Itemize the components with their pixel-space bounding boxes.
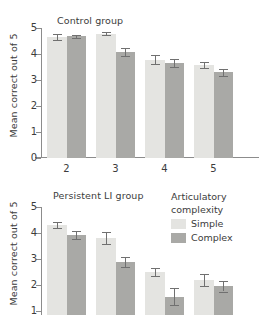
error-bar-cap-upper (53, 222, 62, 223)
error-bar (57, 34, 58, 41)
bar (165, 63, 185, 158)
panel-title: Control group (57, 15, 123, 26)
error-bar (125, 257, 126, 267)
y-axis-line (41, 28, 42, 158)
bar (47, 37, 67, 158)
legend-swatch-complex (171, 233, 186, 243)
error-bar-cap-upper (219, 281, 228, 282)
bar (96, 34, 116, 158)
error-bar-cap-lower (200, 68, 209, 69)
bar (116, 52, 136, 158)
error-bar-cap-upper (200, 62, 209, 63)
chart-panel-control-group: Control group Mean correct out of 5 0123… (0, 0, 262, 178)
error-bar-cap-upper (151, 268, 160, 269)
y-tick-label: 1 (31, 306, 37, 315)
error-bar-cap-upper (53, 34, 62, 35)
error-bar-cap-upper (72, 231, 81, 232)
error-bar (174, 59, 175, 66)
legend-label-complex: Complex (191, 231, 233, 244)
legend-item-complex: Complex (171, 231, 233, 244)
bar (194, 65, 214, 158)
error-bar-cap-lower (53, 40, 62, 41)
y-tick-label: 3 (31, 75, 37, 85)
error-bar (106, 232, 107, 243)
error-bar-cap-lower (121, 56, 130, 57)
error-bar-cap-lower (219, 76, 228, 77)
y-tick-label: 1 (31, 127, 37, 137)
legend-label-simple: Simple (191, 217, 223, 230)
bar (116, 262, 136, 315)
error-bar (204, 274, 205, 286)
legend-swatch-simple (171, 219, 186, 229)
error-bar (155, 268, 156, 275)
error-bar-cap-lower (72, 239, 81, 240)
error-bar (76, 231, 77, 238)
chart-panel-persistent-li-group: Persistent LI group Mean correct out of … (0, 186, 262, 315)
error-bar (174, 288, 175, 305)
bar (214, 72, 234, 158)
bar (67, 36, 87, 158)
error-bar (223, 281, 224, 291)
y-tick-label: 2 (31, 280, 37, 290)
y-tick-label: 4 (31, 49, 37, 59)
error-bar-cap-upper (121, 48, 130, 49)
error-bar-cap-lower (151, 276, 160, 277)
error-bar-cap-lower (219, 292, 228, 293)
error-bar-cap-upper (151, 55, 160, 56)
error-bar (223, 69, 224, 76)
error-bar-cap-lower (121, 267, 130, 268)
error-bar-cap-lower (170, 305, 179, 306)
bar (67, 235, 87, 315)
x-tick-label: 3 (112, 164, 118, 174)
y-tick-label: 0 (31, 153, 37, 163)
y-axis-line (41, 207, 42, 315)
y-tick-label: 5 (31, 202, 37, 212)
error-bar-cap-upper (219, 69, 228, 70)
error-bar (155, 55, 156, 64)
plot-area: 0123452345 (41, 28, 257, 158)
error-bar-cap-lower (53, 228, 62, 229)
error-bar-cap-upper (102, 232, 111, 233)
figure: Control group Mean correct out of 5 0123… (0, 0, 262, 315)
legend-title-line-2: complexity (171, 203, 233, 216)
y-tick-label: 3 (31, 254, 37, 264)
y-tick-label: 5 (31, 23, 37, 33)
bar (47, 225, 67, 315)
error-bar-cap-lower (72, 38, 81, 39)
error-bar-cap-lower (151, 64, 160, 65)
bar (145, 272, 165, 315)
x-tick-label: 2 (63, 164, 69, 174)
legend-title-line-1: Articulatory (171, 190, 233, 203)
error-bar-cap-upper (72, 35, 81, 36)
error-bar (125, 48, 126, 56)
error-bar-cap-upper (102, 32, 111, 33)
error-bar-cap-lower (102, 35, 111, 36)
legend-item-simple: Simple (171, 217, 233, 230)
y-tick-label: 4 (31, 228, 37, 238)
bar (145, 60, 165, 158)
error-bar-cap-upper (121, 257, 130, 258)
bar (96, 238, 116, 315)
error-bar-cap-lower (102, 244, 111, 245)
error-bar-cap-lower (200, 286, 209, 287)
y-axis-label: Mean correct out of 5 (8, 26, 19, 146)
error-bar-cap-upper (170, 59, 179, 60)
x-tick-label: 5 (210, 164, 216, 174)
x-tick-label: 4 (161, 164, 167, 174)
panel-title: Persistent LI group (53, 190, 144, 201)
y-axis-label: Mean correct out of 5 (8, 194, 19, 314)
error-bar-cap-lower (170, 67, 179, 68)
error-bar-cap-upper (170, 288, 179, 289)
error-bar-cap-upper (200, 274, 209, 275)
legend: Articulatory complexity Simple Complex (171, 190, 233, 244)
y-tick-label: 2 (31, 101, 37, 111)
